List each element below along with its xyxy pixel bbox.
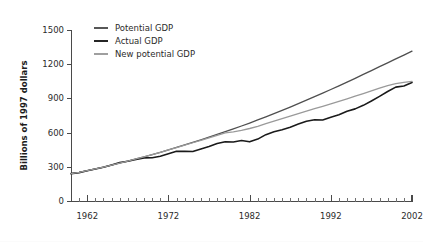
- x-tick-label-1972: 1972: [158, 211, 180, 221]
- y-tick-label-300: 300: [48, 162, 64, 172]
- chart-axis-labels: 03006009001200150019621972198219922002Bi…: [19, 25, 423, 221]
- y-axis-title: Billions of 1997 dollars: [19, 61, 29, 171]
- x-tick-label-2002: 2002: [401, 211, 423, 221]
- series-line-new-potential-gdp: [71, 81, 412, 173]
- chart-series: [71, 51, 412, 173]
- y-tick-label-1500: 1500: [42, 25, 64, 35]
- x-tick-label-1992: 1992: [320, 211, 342, 221]
- y-tick-label-600: 600: [48, 128, 64, 138]
- legend-item-actual-gdp-label: Actual GDP: [115, 36, 163, 46]
- x-tick-label-1962: 1962: [76, 211, 98, 221]
- y-tick-label-900: 900: [48, 93, 64, 103]
- chart-legend: Potential GDPActual GDPNew potential GDP: [94, 23, 195, 59]
- x-tick-label-1982: 1982: [239, 211, 261, 221]
- footer-rule: [0, 241, 423, 242]
- series-line-potential-gdp: [71, 51, 412, 173]
- y-tick-label-0: 0: [59, 196, 64, 206]
- legend-item-new-potential-gdp-label: New potential GDP: [115, 49, 195, 59]
- y-tick-label-1200: 1200: [42, 59, 64, 69]
- gdp-line-chart-figure: Potential GDPActual GDPNew potential GDP…: [0, 0, 423, 246]
- legend-item-potential-gdp-label: Potential GDP: [115, 23, 173, 33]
- series-line-actual-gdp: [71, 82, 412, 173]
- chart-canvas: Potential GDPActual GDPNew potential GDP…: [0, 0, 423, 246]
